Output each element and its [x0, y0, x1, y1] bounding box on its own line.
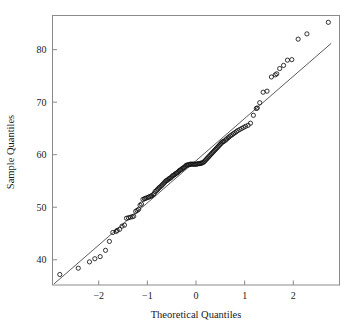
x-tick-label: 1	[242, 290, 247, 301]
y-tick-label: 60	[37, 149, 47, 160]
y-tick-label: 50	[37, 202, 47, 213]
data-point	[107, 239, 111, 243]
data-point	[290, 58, 294, 62]
chart-canvas: −2−1012 4050607080 Theoretical Quantiles…	[0, 0, 354, 327]
data-point	[93, 257, 97, 261]
plot-frame	[53, 16, 340, 286]
y-tick-label: 80	[37, 44, 47, 55]
data-point	[296, 37, 300, 41]
y-tick-label: 40	[37, 254, 47, 265]
qq-plot-figure: −2−1012 4050607080 Theoretical Quantiles…	[0, 0, 354, 327]
data-point	[58, 272, 62, 276]
data-point	[103, 248, 107, 252]
data-points-group	[58, 20, 331, 276]
data-point	[285, 58, 289, 62]
data-point	[251, 113, 255, 117]
x-tick-label: 2	[291, 290, 296, 301]
x-tick-label: −2	[93, 290, 104, 301]
data-point	[265, 89, 269, 93]
x-axis-tick-labels: −2−1012	[93, 290, 295, 301]
y-axis-tick-labels: 4050607080	[37, 44, 47, 265]
x-tick-label: 0	[194, 290, 199, 301]
y-axis-title: Sample Quantiles	[5, 115, 16, 189]
x-tick-label: −1	[142, 290, 153, 301]
x-axis-title: Theoretical Quantiles	[151, 309, 242, 320]
data-point	[326, 20, 330, 24]
x-axis-ticks	[99, 281, 294, 286]
data-point	[98, 255, 102, 259]
data-point	[281, 63, 285, 67]
y-axis-ticks	[53, 50, 58, 260]
y-tick-label: 70	[37, 97, 47, 108]
plot-frame-group	[53, 16, 340, 286]
data-point	[278, 66, 282, 70]
data-point	[87, 260, 91, 264]
data-point	[258, 101, 262, 105]
data-point	[76, 266, 80, 270]
data-point	[305, 32, 309, 36]
